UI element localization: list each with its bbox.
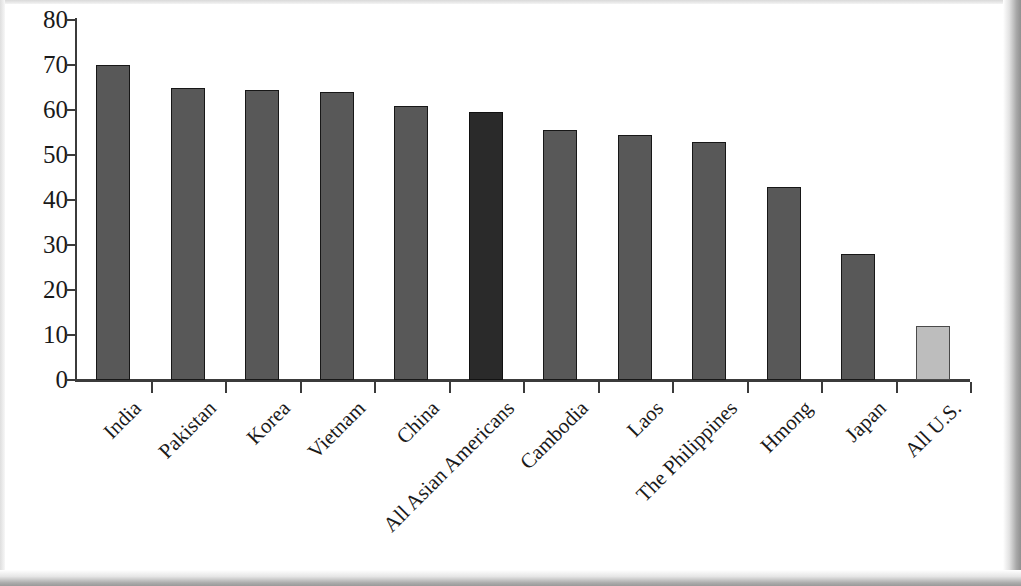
- y-axis-tick-text: 80: [26, 7, 68, 32]
- y-axis-tick-text: 0: [26, 367, 68, 392]
- x-axis-tick-mark: [449, 382, 451, 393]
- y-axis-tick-label: 40: [20, 187, 68, 213]
- y-axis-tick-label: 0: [20, 367, 68, 393]
- bar-vietnam: [320, 92, 354, 380]
- page-edge-bottom: [0, 570, 1021, 586]
- x-axis-tick-mark: [523, 382, 525, 393]
- bar-all-asian-americans: [469, 112, 503, 380]
- x-axis-tick-mark: [747, 382, 749, 393]
- y-axis-tick-label: 70: [20, 52, 68, 78]
- bar-chart: 01020304050607080 IndiaPakistanKoreaViet…: [0, 0, 1003, 570]
- y-axis-tick-label: 80: [20, 7, 68, 33]
- x-axis-tick-mark: [598, 382, 600, 393]
- y-axis-tick-label: 50: [20, 142, 68, 168]
- x-axis-tick-mark: [896, 382, 898, 393]
- x-axis-tick-mark: [672, 382, 674, 393]
- y-axis-tick-label: 30: [20, 232, 68, 258]
- y-axis-tick-text: 30: [26, 232, 68, 257]
- y-axis-tick-mark: [66, 154, 76, 156]
- y-axis-tick-mark: [66, 199, 76, 201]
- y-axis-tick-mark: [66, 64, 76, 66]
- bar-cambodia: [543, 130, 577, 380]
- y-axis-tick-label: 10: [20, 322, 68, 348]
- y-axis-tick-text: 20: [26, 277, 68, 302]
- y-axis-tick-mark: [66, 334, 76, 336]
- x-axis-tick-mark: [151, 382, 153, 393]
- y-axis-tick-label: 60: [20, 97, 68, 123]
- bar-the-philippines: [692, 142, 726, 381]
- x-axis-tick-mark: [225, 382, 227, 393]
- bar-korea: [245, 90, 279, 380]
- bar-china: [394, 106, 428, 381]
- bar-japan: [841, 254, 875, 380]
- scanned-page-background: 01020304050607080 IndiaPakistanKoreaViet…: [0, 0, 1021, 586]
- page-edge-right: [1003, 0, 1021, 586]
- y-axis-tick-mark: [66, 109, 76, 111]
- y-axis-tick-text: 50: [26, 142, 68, 167]
- y-axis-tick-text: 10: [26, 322, 68, 347]
- y-axis-tick-mark: [66, 379, 76, 381]
- bar-india: [96, 65, 130, 380]
- y-axis-tick-text: 70: [26, 52, 68, 77]
- y-axis-tick-mark: [66, 289, 76, 291]
- bar-all-u-s: [916, 326, 950, 380]
- x-axis-tick-mark: [374, 382, 376, 393]
- y-axis-tick-label: 20: [20, 277, 68, 303]
- x-axis-tick-mark: [300, 382, 302, 393]
- x-axis-tick-mark: [970, 382, 972, 393]
- y-axis-tick-mark: [66, 19, 76, 21]
- y-axis-tick-text: 60: [26, 97, 68, 122]
- bar-hmong: [767, 187, 801, 381]
- y-axis-tick-mark: [66, 244, 76, 246]
- x-axis-tick-mark: [821, 382, 823, 393]
- bar-laos: [618, 135, 652, 380]
- bar-pakistan: [171, 88, 205, 381]
- y-axis-tick-text: 40: [26, 187, 68, 212]
